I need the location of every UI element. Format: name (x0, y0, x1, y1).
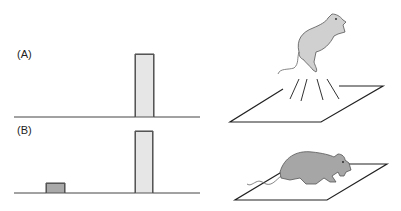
prepulse-inhibition-diagram: (A) (B) (0, 0, 401, 211)
mouse-jumping-icon (278, 14, 346, 74)
jump-motion-lines (290, 79, 339, 101)
trace-b (14, 131, 200, 193)
trace-a (14, 54, 200, 117)
diagram-graphics (0, 0, 401, 211)
mouse-crouched-icon (247, 152, 351, 185)
platform-a (230, 86, 383, 122)
